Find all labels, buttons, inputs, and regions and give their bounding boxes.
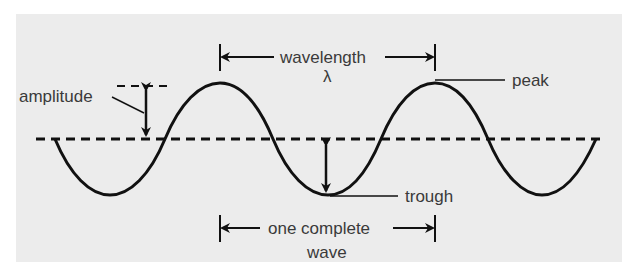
one-complete-label: one complete [268, 219, 370, 238]
amplitude-leader [112, 97, 144, 113]
wave-label: wave [306, 243, 347, 262]
trough-label: trough [405, 187, 453, 206]
wavelength-label: wavelength [279, 48, 366, 67]
wave-diagram: amplitude wavelength λ peak trough one c… [0, 0, 627, 274]
lambda-symbol: λ [323, 67, 332, 86]
peak-label: peak [512, 71, 549, 90]
amplitude-label: amplitude [19, 87, 93, 106]
